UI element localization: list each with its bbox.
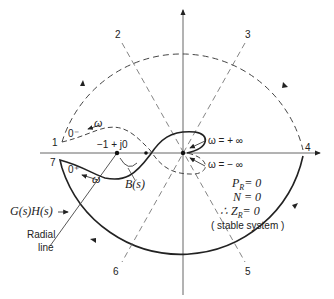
svg-text:∴ ZR= 0: ∴ ZR= 0 xyxy=(220,204,260,220)
stability-conclusion: PR= 0 N = 0 ∴ ZR= 0 ( stable system ) xyxy=(211,176,284,231)
radial-line-label-2: line xyxy=(38,242,54,253)
upper-dashed-arc xyxy=(62,54,303,150)
point-label-6: 6 xyxy=(113,266,119,277)
arc-arrow-icon xyxy=(80,80,85,86)
gh-curve-negative xyxy=(62,127,205,174)
zero-minus-label: 0⁻ xyxy=(68,128,79,139)
gh-label: G(s)H(s) xyxy=(10,204,53,218)
omega-label-lower: ω xyxy=(92,172,100,186)
arc-arrow-icon xyxy=(90,238,96,243)
omega-minus-inf-label: ω = − ∞ xyxy=(208,159,243,170)
omega-plus-inf-label: ω = + ∞ xyxy=(208,135,243,146)
arc-arrow-icon xyxy=(282,82,288,88)
arc-arrow-icon xyxy=(292,203,298,209)
critical-point-label: −1 + j0 xyxy=(97,139,128,150)
b-angle-arc xyxy=(120,158,137,167)
point-label-7: 7 xyxy=(50,157,56,168)
point-label-5: 5 xyxy=(245,266,251,277)
svg-text:N = 0: N = 0 xyxy=(232,190,261,204)
nyquist-diagram: 1 2 3 4 5 6 7 −1 + j0 0⁻ ω 0⁺ ω B(s) ω =… xyxy=(0,0,334,299)
svg-text:( stable system ): ( stable system ) xyxy=(211,220,284,231)
origin-point xyxy=(181,151,185,155)
gh-curve-positive xyxy=(60,132,205,179)
radial-line-label-1: Radial xyxy=(27,229,55,240)
point-label-2: 2 xyxy=(115,29,121,40)
point-label-3: 3 xyxy=(245,29,251,40)
zero-plus-label: 0⁺ xyxy=(68,164,79,175)
point-label-4: 4 xyxy=(305,142,311,153)
critical-point xyxy=(115,151,119,155)
point-label-1: 1 xyxy=(52,137,58,148)
lower-solid-arc xyxy=(62,156,303,254)
b-s-label: B(s) xyxy=(125,177,145,191)
radial-line xyxy=(50,153,117,246)
omega-label-upper: ω xyxy=(94,116,102,130)
